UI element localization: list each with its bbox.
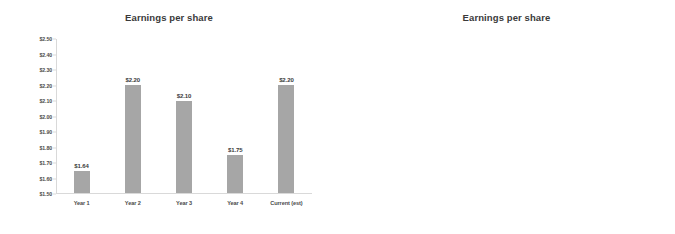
chart-right-title: Earnings per share [338, 12, 675, 23]
bar[interactable] [278, 85, 294, 193]
chart-left-plot-area: $2.50$2.40$2.30$2.20$2.10$2.00$1.90$1.80… [56, 39, 312, 194]
bar[interactable] [74, 171, 90, 193]
chart-left-y-tick-mark [53, 194, 56, 195]
chart-left-y-tick-label: $2.30 [40, 67, 52, 73]
chart-left-y-tick-label: $2.10 [40, 98, 52, 104]
chart-left-y-tick-mark [53, 116, 56, 117]
chart-left-y-tick-label: $2.40 [40, 52, 52, 58]
chart-left-x-axis-line [56, 193, 312, 194]
chart-left-y-tick-mark [53, 178, 56, 179]
chart-left-title: Earnings per share [0, 12, 338, 23]
chart-left-y-tick-label: $2.00 [40, 114, 52, 120]
bar-column[interactable]: $1.75Year 4 [227, 155, 243, 194]
dual-bar-chart-figure: Earnings per share $2.50$2.40$2.30$2.20$… [0, 0, 675, 234]
chart-left-y-axis-line [56, 39, 57, 194]
bar-value-label: $2.20 [279, 77, 294, 83]
chart-left-y-tick-label: $2.20 [40, 83, 52, 89]
chart-left-y-tick-mark [53, 163, 56, 164]
chart-left-y-tick-mark [53, 132, 56, 133]
x-axis-category-label: Year 1 [74, 200, 90, 206]
chart-left-y-tick-label: $1.70 [40, 160, 52, 166]
bar-column[interactable]: $1.64Year 1 [74, 171, 90, 193]
chart-right-full-axis: Earnings per share $2.50$0.00 $1.64Year … [338, 0, 675, 234]
chart-left-y-tick-label: $1.80 [40, 145, 52, 151]
bar[interactable] [176, 101, 192, 193]
chart-left-y-tick-mark [53, 54, 56, 55]
x-axis-category-label: Year 4 [227, 200, 243, 206]
x-axis-category-label: Year 2 [125, 200, 141, 206]
bar-column[interactable]: $2.20Year 2 [125, 85, 141, 193]
bar-value-label: $2.10 [177, 93, 192, 99]
chart-left-truncated-axis: Earnings per share $2.50$2.40$2.30$2.20$… [0, 0, 338, 234]
x-axis-category-label: Current (est) [270, 200, 302, 206]
chart-left-y-tick-label: $1.90 [40, 129, 52, 135]
bar[interactable] [125, 85, 141, 193]
chart-left-y-tick-mark [53, 101, 56, 102]
bar[interactable] [227, 155, 243, 194]
chart-left-y-tick-label: $1.60 [40, 176, 52, 182]
bar-column[interactable]: $2.10Year 3 [176, 101, 192, 193]
chart-left-y-tick-mark [53, 147, 56, 148]
x-axis-category-label: Year 3 [176, 200, 192, 206]
bar-value-label: $1.64 [74, 163, 89, 169]
chart-left-y-tick-label: $2.50 [40, 36, 52, 42]
chart-left-y-tick-mark [53, 85, 56, 86]
bar-column[interactable]: $2.20Current (est) [278, 85, 294, 193]
chart-left-y-tick-mark [53, 70, 56, 71]
chart-left-y-tick-mark [53, 39, 56, 40]
chart-left-y-tick-label: $1.50 [40, 191, 52, 197]
bar-value-label: $2.20 [126, 77, 141, 83]
bar-value-label: $1.75 [228, 147, 243, 153]
